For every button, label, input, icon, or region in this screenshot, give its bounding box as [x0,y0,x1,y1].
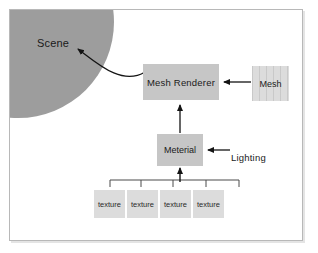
diagram-page: Scene Mesh Renderer Mesh Meterial Lighti… [0,0,318,253]
node-texture-1[interactable]: texture [94,190,125,218]
node-texture-3[interactable]: texture [160,190,191,218]
node-texture-4-label: texture [197,200,220,209]
node-texture-3-label: texture [164,200,187,209]
node-material-label: Meterial [164,145,196,155]
node-mesh-renderer-label: Mesh Renderer [147,77,215,88]
node-texture-1-label: texture [98,200,121,209]
node-texture-4[interactable]: texture [193,190,224,218]
scene-circle [10,10,114,118]
diagram-canvas: Scene Mesh Renderer Mesh Meterial Lighti… [10,10,302,240]
node-texture-2-label: texture [131,200,154,209]
node-texture-2[interactable]: texture [127,190,158,218]
node-lighting-label: Lighting [231,152,266,163]
node-material[interactable]: Meterial [157,134,203,166]
node-mesh-label: Mesh [259,79,281,89]
node-mesh[interactable]: Mesh [252,66,289,101]
texture-bracket [110,180,239,187]
node-mesh-renderer[interactable]: Mesh Renderer [143,64,219,100]
scene-label: Scene [37,37,69,49]
